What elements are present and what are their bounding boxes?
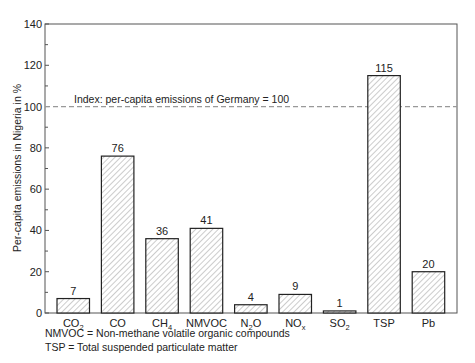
bar-value-label: 41 [200,214,212,226]
y-tick-label: 120 [24,59,42,71]
bar-chart: 020406080100120140 Index: per-capita emi… [0,0,475,363]
bar-tsp [368,76,401,313]
y-tick-label: 40 [30,224,42,236]
y-tick-label: 0 [36,307,42,319]
bar-co [101,156,133,313]
bar-pb [412,272,445,313]
x-tick-label: TSP [373,317,394,329]
bar-co2 [57,299,90,313]
bar-so2 [323,311,356,313]
bar-value-label: 9 [292,280,298,292]
bar-value-label: 115 [375,62,393,74]
y-tick-label: 140 [24,18,42,30]
bar-value-label: 20 [422,258,434,270]
y-tick-label: 60 [30,183,42,195]
bar-n2o [235,305,268,313]
bar-nox [279,294,312,313]
x-tick-label: Pb [422,317,435,329]
footnote-nmvoc: NMVOC = Non-methane volatile organic com… [45,327,290,339]
y-tick-label: 100 [24,101,42,113]
bar-value-label: 1 [337,297,343,309]
y-tick-label: 80 [30,142,42,154]
bar-value-label: 76 [112,142,124,154]
bar-value-label: 7 [70,285,76,297]
bar-ch4 [146,239,179,313]
y-tick-label: 20 [30,266,42,278]
reference-line-label: Index: per-capita emissions of Germany =… [74,93,289,105]
x-tick-label: SO2 [330,317,350,332]
bar-value-label: 36 [156,225,168,237]
bar-value-label: 4 [248,291,254,303]
bar-nmvoc [190,228,223,313]
footnote-tsp: TSP = Total suspended particulate matter [45,341,238,353]
y-axis-label: Per-capita emissions in Nigeria in % [11,84,23,252]
